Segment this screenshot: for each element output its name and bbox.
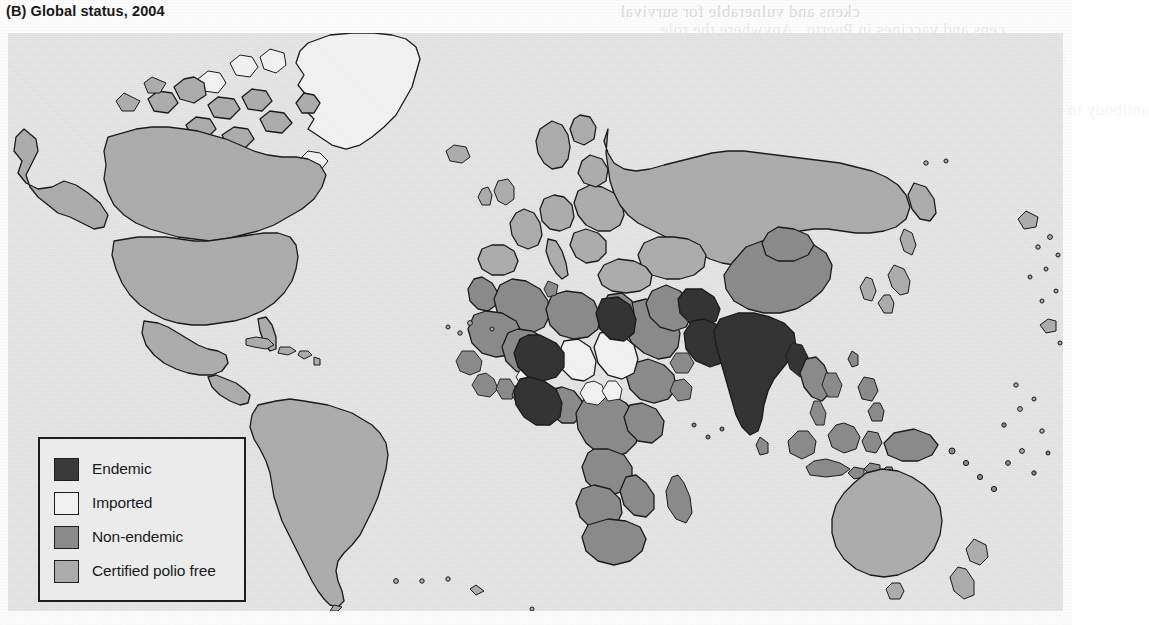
bleed-text-line: ckens and vulnerable for survival (620, 2, 860, 22)
legend-item-non-endemic: Non-endemic (54, 520, 244, 554)
legend-item-imported: Imported (54, 486, 244, 520)
region-europe (446, 115, 624, 279)
country-india (714, 313, 796, 435)
legend-swatch-endemic (54, 458, 79, 481)
region-australia-newzealand (832, 469, 988, 599)
region-north-america (14, 127, 326, 405)
legend-label-imported: Imported (92, 494, 152, 512)
legend-swatch-certified-polio-free (54, 560, 79, 583)
region-south-america (250, 399, 388, 611)
legend-label-non-endemic: Non-endemic (92, 528, 183, 546)
legend-swatch-non-endemic (54, 526, 79, 549)
legend-swatch-imported (54, 492, 79, 515)
legend-item-certified-polio-free: Certified polio free (54, 554, 244, 588)
world-map-panel: .cf { fill:#adadad; stroke:#1a1a1a; stro… (8, 33, 1063, 611)
figure-title: (B) Global status, 2004 (6, 3, 165, 19)
country-nigeria (514, 377, 562, 425)
legend-item-endemic: Endemic (54, 452, 244, 486)
map-legend: Endemic Imported Non-endemic Certified p… (38, 437, 246, 602)
legend-label-certified-polio-free: Certified polio free (92, 562, 216, 580)
legend-label-endemic: Endemic (92, 460, 152, 478)
